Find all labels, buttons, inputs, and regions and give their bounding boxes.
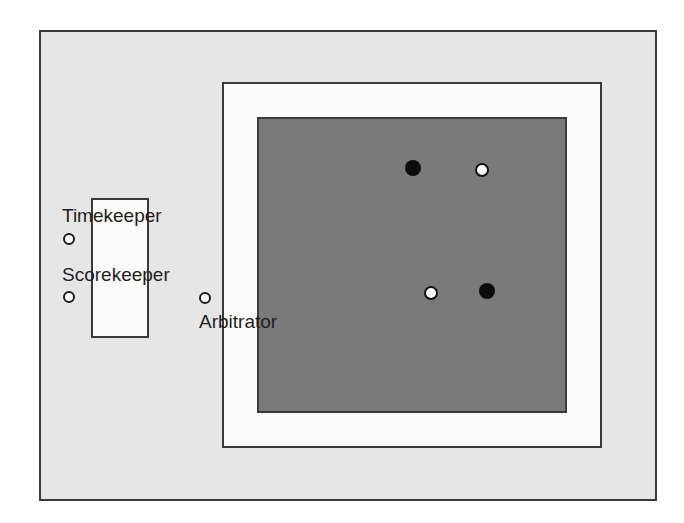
timekeeper-marker-icon <box>63 233 75 245</box>
timekeeper-label: Timekeeper <box>62 206 162 225</box>
scorekeeper-label: Scorekeeper <box>62 265 170 284</box>
competitor-white-1-icon <box>475 163 489 177</box>
competitor-black-2-icon <box>479 283 495 299</box>
competitor-white-2-icon <box>424 286 438 300</box>
arbitrator-label: Arbitrator <box>199 312 277 331</box>
arbitrator-marker-icon <box>199 292 211 304</box>
scorekeeper-marker-icon <box>63 291 75 303</box>
competitor-black-1-icon <box>405 160 421 176</box>
